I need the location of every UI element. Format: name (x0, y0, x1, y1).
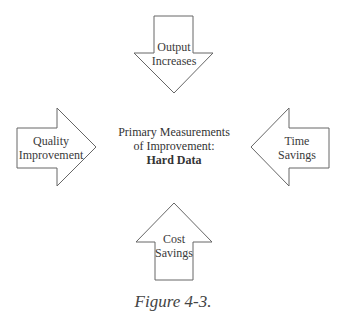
label-line: Quality (17, 134, 85, 148)
label-line: Time (262, 134, 332, 148)
label-line: Increases (134, 54, 214, 68)
label-line: Savings (262, 148, 332, 162)
label-line: Cost (136, 232, 212, 246)
arrow-label-quality-improvement: Quality Improvement (17, 134, 85, 162)
arrow-label-time-savings: Time Savings (262, 134, 332, 162)
figure-caption: Figure 4-3. (0, 292, 346, 312)
arrow-label-output-increases: Output Increases (134, 40, 214, 68)
center-title: Primary Measurements of Improvement: Har… (118, 125, 230, 167)
label-line: Savings (136, 246, 212, 260)
center-bold-heading: Hard Data (118, 153, 230, 167)
center-line-1: Primary Measurements (118, 125, 230, 139)
label-line: Improvement (17, 148, 85, 162)
label-line: Output (134, 40, 214, 54)
arrow-label-cost-savings: Cost Savings (136, 232, 212, 260)
center-line-2: of Improvement: (118, 139, 230, 153)
